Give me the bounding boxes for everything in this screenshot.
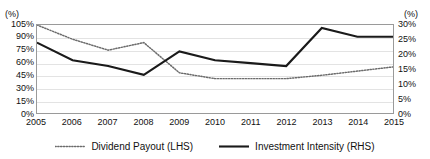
legend-item[interactable]: Investment Intensity (RHS)	[219, 141, 374, 152]
x-axis-tick: 2013	[302, 118, 342, 127]
series-lines	[37, 25, 393, 113]
x-axis-tick: 2011	[231, 118, 271, 127]
left-axis-tick: 60%	[16, 58, 34, 67]
chart-legend: Dividend Payout (LHS)Investment Intensit…	[0, 138, 430, 154]
x-axis-tick: 2010	[195, 118, 235, 127]
left-axis-tick: 30%	[16, 84, 34, 93]
x-axis-tick: 2005	[16, 118, 56, 127]
right-axis-tick: 15%	[398, 65, 416, 74]
x-axis-tick: 2014	[338, 118, 378, 127]
x-axis-tick: 2007	[88, 118, 128, 127]
legend-label: Dividend Payout (LHS)	[91, 141, 193, 152]
left-axis-tick: 45%	[16, 71, 34, 80]
left-axis-unit-label: (%)	[5, 9, 19, 19]
dotted-line-swatch-icon	[55, 142, 85, 151]
series-line-investment-intensity	[37, 28, 393, 75]
plot-area	[36, 24, 394, 114]
right-axis-tick: 30%	[398, 20, 416, 29]
right-axis-tick: 20%	[398, 50, 416, 59]
x-axis-tick: 2015	[374, 118, 414, 127]
left-axis-tick: 90%	[16, 32, 34, 41]
right-axis-tick: 10%	[398, 80, 416, 89]
x-axis-tick: 2009	[159, 118, 199, 127]
x-axis-tick: 2008	[123, 118, 163, 127]
solid-line-swatch-icon	[219, 142, 249, 151]
legend-label: Investment Intensity (RHS)	[255, 141, 374, 152]
right-axis-unit-label: (%)	[404, 9, 418, 19]
x-axis-tick: 2012	[267, 118, 307, 127]
left-axis-tick: 75%	[16, 45, 34, 54]
left-axis-tick: 15%	[16, 97, 34, 106]
right-axis-tick: 5%	[398, 95, 411, 104]
left-axis-tick: 105%	[11, 20, 34, 29]
dual-axis-line-chart: (%) (%) 105%90%75%60%45%30%15%0% 30%25%2…	[0, 0, 430, 159]
x-axis-tick: 2006	[52, 118, 92, 127]
legend-item[interactable]: Dividend Payout (LHS)	[55, 141, 193, 152]
right-axis-tick: 25%	[398, 35, 416, 44]
